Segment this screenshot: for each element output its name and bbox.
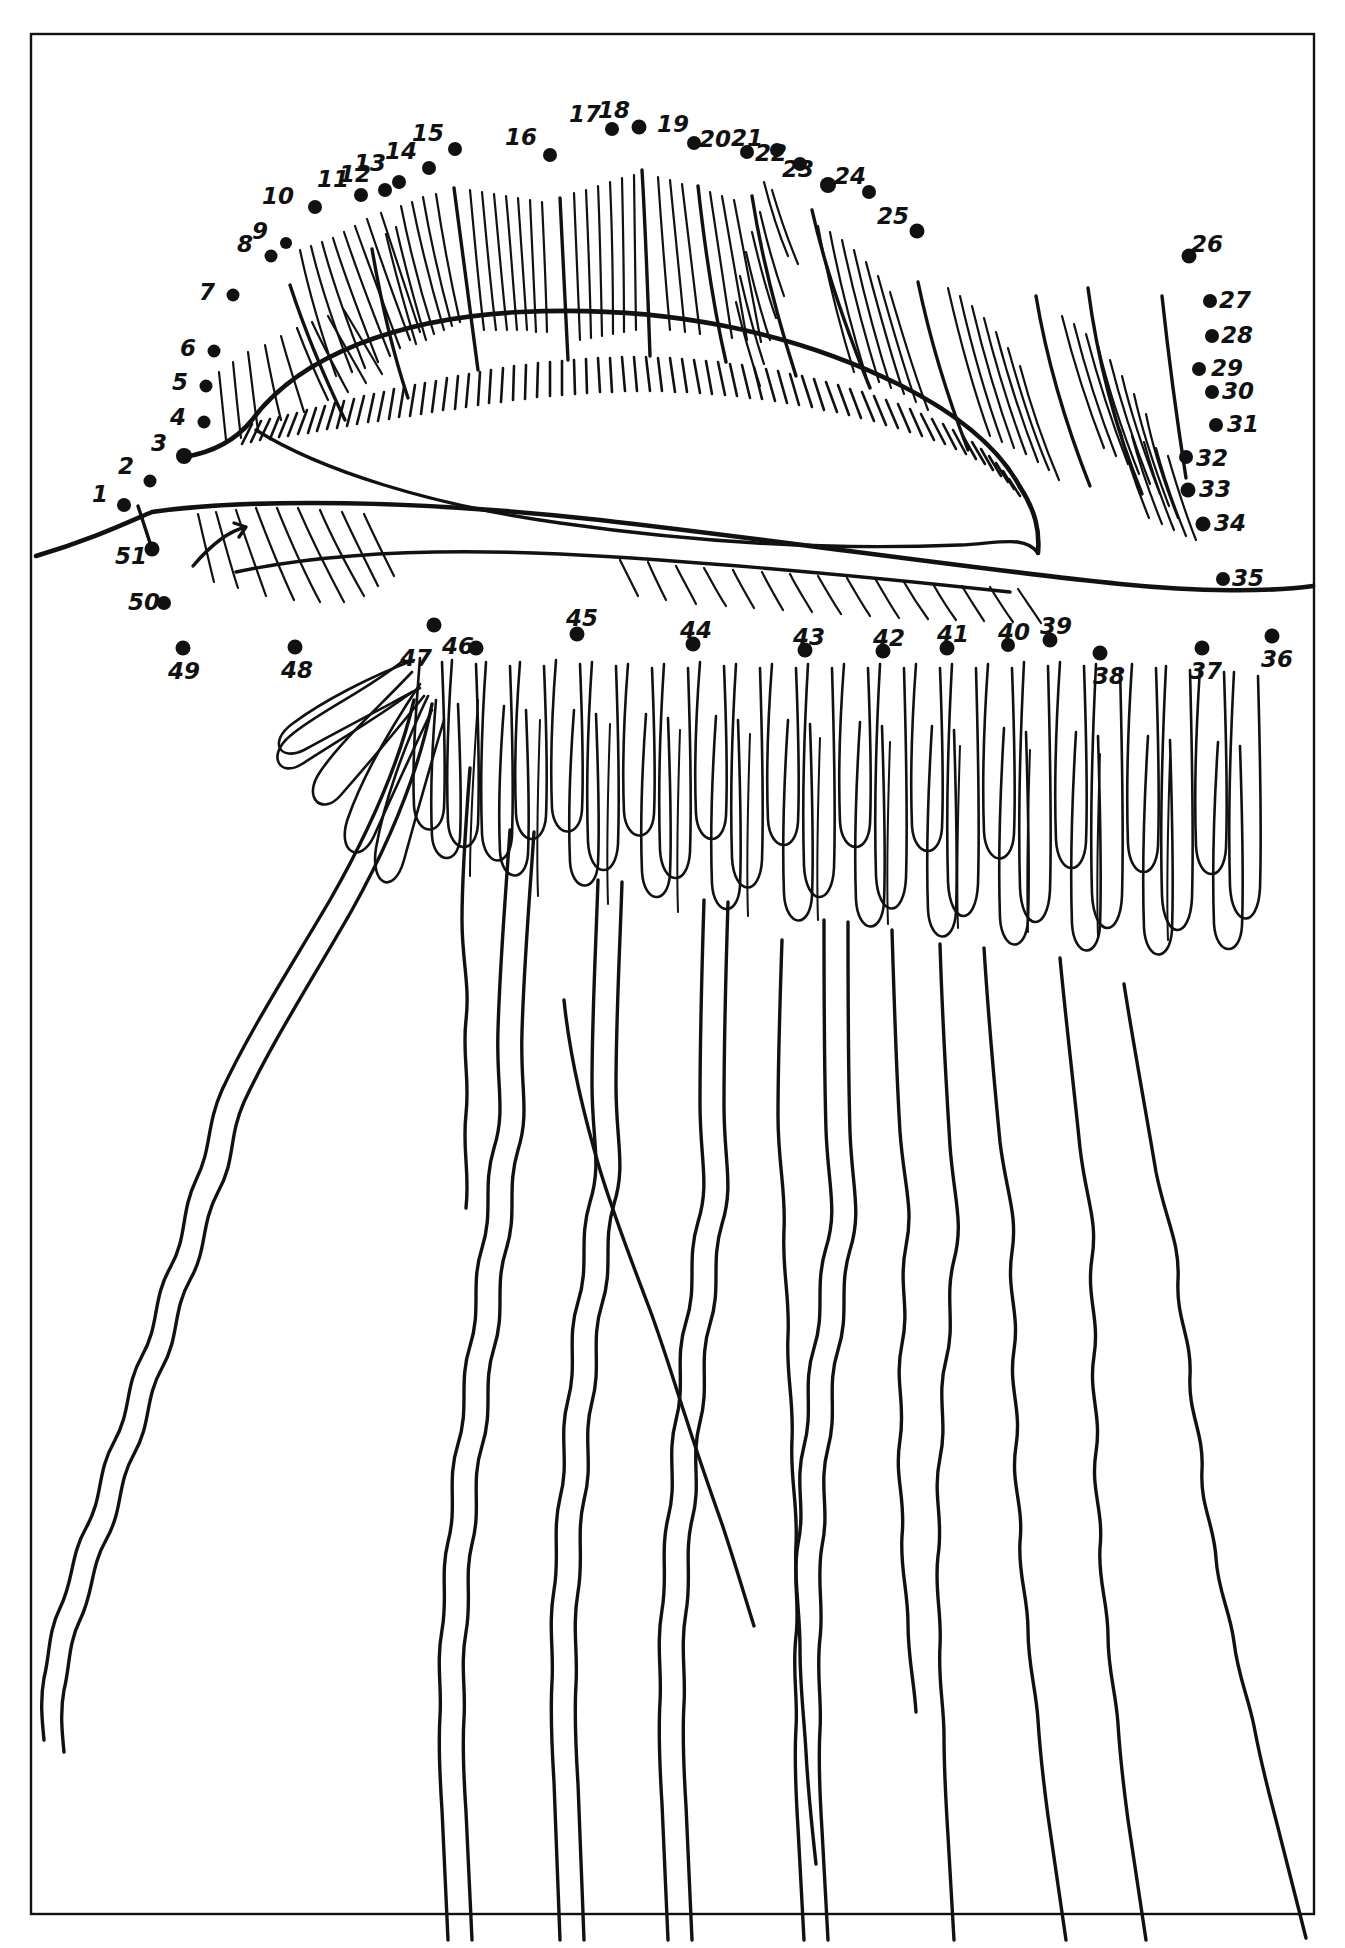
dot-label-27: 27 [1219,289,1251,312]
dot-label-24: 24 [834,165,866,188]
veil-front-edge [36,503,1313,590]
dot-label-18: 18 [598,99,630,122]
dot-label-42: 42 [873,627,905,650]
dot-label-17: 17 [569,103,601,126]
dot-label-48: 48 [281,659,313,682]
dot-label-46: 46 [442,635,474,658]
dot-label-1: 1 [92,483,108,506]
dot-label-7: 7 [199,281,215,304]
dot-label-10: 10 [262,185,294,208]
dot-label-25: 25 [877,205,909,228]
dot-label-40: 40 [998,621,1030,644]
dot-label-35: 35 [1232,567,1264,590]
dot-label-34: 34 [1214,512,1246,535]
dot-label-19: 19 [657,113,689,136]
dot-label-45: 45 [566,607,598,630]
marginal-tentacle-band [413,658,1260,930]
puzzle-page: .s{fill:none;stroke:#111;stroke-linecap:… [0,0,1345,1948]
dot-label-32: 32 [1196,447,1228,470]
dot-label-9: 9 [252,220,268,243]
dot-label-51: 51 [115,545,147,568]
dot-label-13: 13 [354,152,386,175]
dot-label-4: 4 [170,406,186,429]
bell-rib-right [1162,296,1186,478]
dot-label-31: 31 [1227,413,1259,436]
dot-label-44: 44 [680,619,712,642]
dot-label-30: 30 [1222,380,1254,403]
dot-label-33: 33 [1199,478,1231,501]
dot-label-47: 47 [400,647,432,670]
dot-label-50: 50 [128,591,160,614]
dot-label-15: 15 [412,122,444,145]
dot-label-43: 43 [793,626,825,649]
dot-label-37: 37 [1190,660,1222,683]
long-trailing-tentacles [42,700,1306,1940]
dot-label-26: 26 [1191,233,1223,256]
dot-label-41: 41 [937,623,969,646]
dot-label-28: 28 [1221,324,1253,347]
dot-label-16: 16 [505,126,537,149]
tentacle-inner-strands [470,700,1170,940]
dot-label-39: 39 [1040,615,1072,638]
dot-label-49: 49 [168,660,200,683]
dot-label-2: 2 [118,455,134,478]
left-curling-tentacles [277,660,444,882]
dot-label-5: 5 [172,371,188,394]
dot-label-20: 20 [699,128,731,151]
dot-label-36: 36 [1261,648,1293,671]
dot-label-6: 6 [180,337,196,360]
dot-label-3: 3 [151,432,167,455]
dot-label-38: 38 [1093,665,1125,688]
dot-label-29: 29 [1211,357,1243,380]
dot-label-23: 23 [782,158,814,181]
dot-label-8: 8 [237,233,253,256]
veil-hatching [198,508,1041,623]
